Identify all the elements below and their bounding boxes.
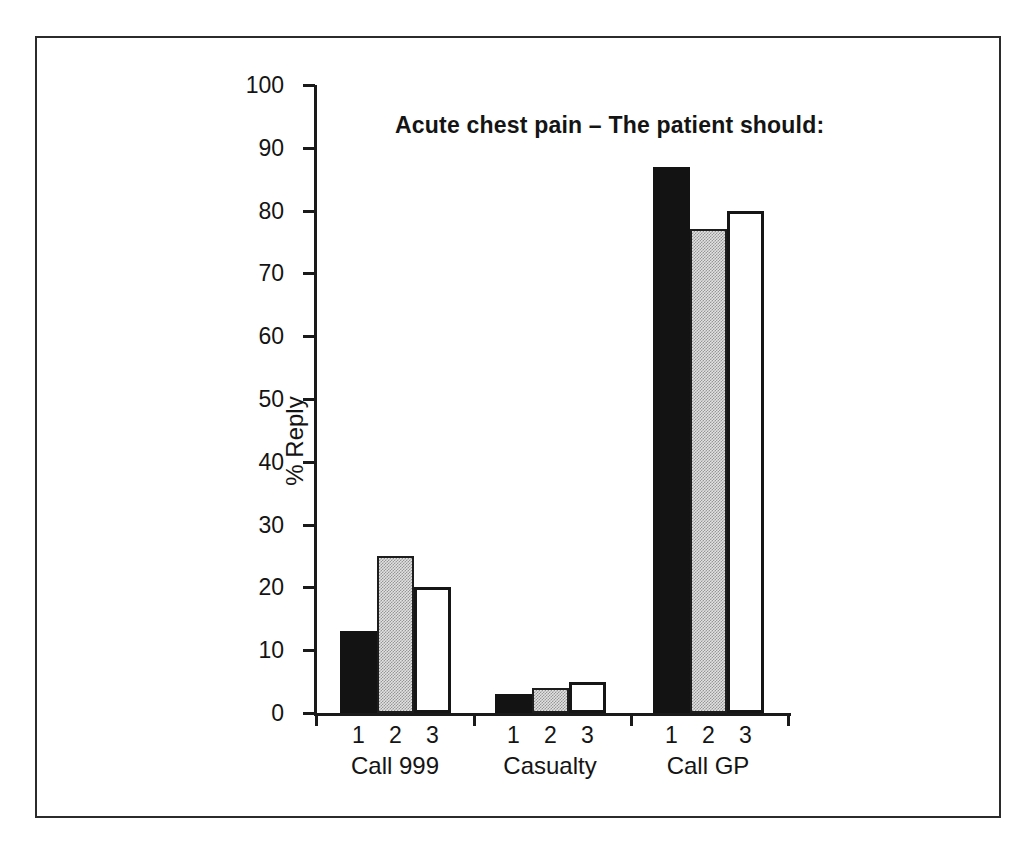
bar-index-label: 3 — [727, 722, 764, 748]
y-tick-label: 90 — [214, 135, 284, 161]
category-label-call-gp: Call GP — [667, 752, 750, 780]
bar-call-gp-series-3 — [727, 211, 764, 713]
bar-casualty-series-1 — [495, 694, 532, 713]
y-tick-label: 20 — [214, 574, 284, 600]
y-tick-mark — [303, 84, 315, 87]
x-axis-boundary-tick — [630, 713, 633, 726]
y-tick-label: 10 — [214, 637, 284, 663]
x-axis-boundary-tick — [787, 713, 790, 726]
scanned-figure-page: Acute chest pain – The patient should: %… — [0, 0, 1033, 852]
bar-index-label: 3 — [414, 722, 451, 748]
bar-index-label: 1 — [495, 722, 532, 748]
y-tick-label: 40 — [214, 449, 284, 475]
y-tick-label: 80 — [214, 198, 284, 224]
y-tick-mark — [303, 398, 315, 401]
category-label-call-999: Call 999 — [351, 752, 439, 780]
bar-call-gp-series-2 — [690, 229, 727, 713]
y-tick-mark — [303, 210, 315, 213]
bar-index-label: 1 — [340, 722, 377, 748]
y-tick-label: 0 — [214, 700, 284, 726]
category-label-casualty: Casualty — [503, 752, 596, 780]
y-tick-label: 100 — [214, 72, 284, 98]
y-tick-label: 70 — [214, 260, 284, 286]
bar-index-label: 2 — [690, 722, 727, 748]
bar-index-label: 2 — [532, 722, 569, 748]
y-tick-label: 30 — [214, 512, 284, 538]
chart-title: Acute chest pain – The patient should: — [395, 112, 824, 139]
bar-casualty-series-3 — [569, 682, 606, 713]
bar-call-999-series-2 — [377, 556, 414, 713]
y-tick-mark — [303, 272, 315, 275]
bar-call-999-series-1 — [340, 631, 377, 713]
y-tick-mark — [303, 461, 315, 464]
y-tick-mark — [303, 147, 315, 150]
x-axis-boundary-tick — [315, 713, 318, 726]
y-tick-mark — [303, 586, 315, 589]
bar-call-999-series-3 — [414, 587, 451, 713]
bar-index-label: 3 — [569, 722, 606, 748]
bar-call-gp-series-1 — [653, 167, 690, 713]
y-tick-mark — [303, 335, 315, 338]
x-axis-line — [314, 713, 791, 716]
bar-index-label: 2 — [377, 722, 414, 748]
y-tick-mark — [303, 524, 315, 527]
bar-index-label: 1 — [653, 722, 690, 748]
y-tick-mark — [303, 649, 315, 652]
x-axis-boundary-tick — [473, 713, 476, 726]
y-tick-label: 50 — [214, 386, 284, 412]
y-tick-label: 60 — [214, 323, 284, 349]
bar-casualty-series-2 — [532, 688, 569, 713]
